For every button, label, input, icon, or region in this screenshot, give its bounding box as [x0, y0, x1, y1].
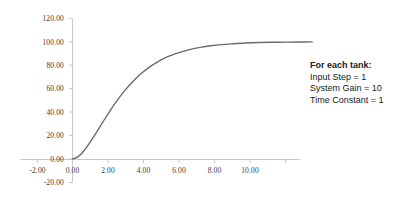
y-tick-label-40: 40.00: [8, 108, 64, 117]
y-tick-marks: [69, 19, 73, 183]
x-tick-marks: [38, 160, 286, 164]
y-tick-label-neg20: -20.00: [8, 178, 64, 187]
annotation-line-system-gain: System Gain = 10: [310, 83, 408, 95]
annotation-line-time-constant: Time Constant = 1: [310, 95, 408, 107]
x-tick-label-10: 10.00: [230, 166, 270, 175]
y-tick-label-100: 100.00: [8, 38, 64, 47]
y-tick-label-60: 60.00: [8, 84, 64, 93]
annotation-title: For each tank:: [310, 60, 408, 72]
x-tick-label-neg2: -2.00: [18, 166, 58, 175]
annotation-line-input-step: Input Step = 1: [310, 72, 408, 84]
x-tick-label-0: 0.00: [53, 166, 93, 175]
chart-figure: 120.00 100.00 80.00 60.00 40.00 20.00 0.…: [0, 0, 412, 200]
y-tick-label-80: 80.00: [8, 61, 64, 70]
annotation-block: For each tank: Input Step = 1 System Gai…: [310, 60, 408, 106]
x-tick-label-8: 8.00: [195, 166, 235, 175]
y-tick-label-20: 20.00: [8, 131, 64, 140]
x-tick-label-4: 4.00: [124, 166, 164, 175]
x-tick-label-6: 6.00: [159, 166, 199, 175]
series-line-step-response: [73, 42, 313, 159]
y-tick-label-120: 120.00: [8, 14, 64, 23]
y-tick-label-0: 0.00: [8, 155, 64, 164]
x-tick-label-2: 2.00: [88, 166, 128, 175]
